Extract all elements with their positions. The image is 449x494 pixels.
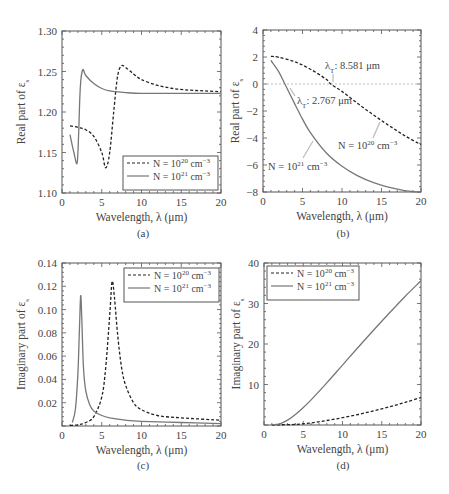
x-tick-label: 15 — [176, 196, 188, 208]
x-tick-label: 0 — [59, 196, 65, 208]
y-tick-label: 0 — [253, 78, 259, 90]
caption-c: (c) — [128, 459, 158, 471]
y-tick-label: 0.14 — [38, 257, 58, 269]
x-tick-label: 10 — [337, 195, 349, 207]
x-tick-label: 5 — [99, 196, 105, 208]
x-tick-label: 0 — [59, 429, 65, 441]
y-tick-label: 0.02 — [38, 397, 57, 409]
x-tick-label: 0 — [260, 195, 266, 207]
x-tick-label: 20 — [216, 429, 228, 441]
y-tick-label: 0.12 — [38, 280, 57, 292]
legend: N = 1020 cm−3N = 1021 cm−3 — [124, 268, 219, 302]
chart-canvas: 051015201.101.151.201.251.30Wavelength, … — [0, 0, 449, 494]
legend: N = 1020 cm−3N = 1021 cm−3 — [123, 156, 218, 190]
x-tick-label: 20 — [416, 195, 428, 207]
x-tick-label: 15 — [176, 429, 188, 441]
x-tick-label: 20 — [216, 196, 228, 208]
x-tick-label: 5 — [300, 195, 306, 207]
x-tick-label: 15 — [376, 428, 388, 440]
y-tick-label: −2 — [246, 105, 258, 117]
series-label-n1e21: N = 1021 cm−3 — [268, 160, 328, 172]
y-axis-label: Real part of εs — [15, 79, 31, 144]
caption-b: (b) — [328, 227, 358, 239]
x-tick-label: 10 — [136, 196, 148, 208]
x-axis-label: Wavelength, λ (μm) — [297, 443, 389, 456]
series-line-n1e21 — [271, 60, 421, 192]
y-tick-label: 4 — [253, 24, 259, 36]
x-axis-label: Wavelength, λ (μm) — [296, 210, 388, 223]
y-tick-label: 1.20 — [38, 106, 58, 118]
y-tick-label: −4 — [246, 132, 258, 144]
y-tick-label: 0.10 — [38, 304, 58, 316]
x-axis-label: Wavelength, λ (μm) — [96, 444, 188, 457]
x-axis-label: Wavelength, λ (μm) — [96, 211, 188, 224]
chart-panel-c: 051015200.020.040.060.080.100.120.14Wave… — [15, 257, 227, 457]
lambda-t-annotation-2: λT: 2.767 μm — [297, 95, 352, 110]
x-tick-label: 5 — [301, 428, 307, 440]
y-tick-label: 40 — [248, 257, 260, 269]
y-tick-label: 2 — [253, 51, 259, 63]
series-line-n1e20 — [70, 65, 221, 168]
chart-panel-a: 051015201.101.151.201.251.30Wavelength, … — [15, 25, 227, 224]
y-axis-label: Imaginary part of εs — [230, 298, 246, 389]
series-line-n1e21 — [272, 281, 421, 425]
caption-d: (d) — [328, 459, 358, 471]
x-tick-label: 15 — [376, 195, 388, 207]
y-tick-label: 1.25 — [38, 66, 58, 78]
y-tick-label: −8 — [246, 186, 258, 198]
y-tick-label: 1.30 — [38, 25, 58, 37]
lambda-t-annotation-1: λT: 8.581 μm — [325, 60, 380, 75]
y-tick-label: 1.10 — [38, 187, 58, 199]
legend: N = 1020 cm−3N = 1021 cm−3 — [267, 266, 359, 300]
series-label-n1e20: N = 1020 cm−3 — [338, 139, 398, 151]
y-tick-label: 0.06 — [38, 350, 58, 362]
series-line-n1e21 — [70, 69, 221, 163]
x-tick-label: 5 — [99, 429, 105, 441]
y-tick-label: 30 — [248, 298, 260, 310]
y-tick-label: 1.15 — [38, 147, 58, 159]
y-tick-label: −6 — [246, 159, 258, 171]
x-tick-label: 10 — [136, 429, 148, 441]
chart-panel-b: 05101520−8−6−4−2024Wavelength, λ (μm)Rea… — [229, 24, 427, 223]
y-tick-label: 10 — [248, 379, 260, 391]
annotations: λT: 8.581 μmλT: 2.767 μmN = 1020 cm−3N =… — [268, 60, 398, 172]
series-line-n1e21 — [72, 296, 221, 424]
caption-a: (a) — [128, 227, 158, 239]
y-tick-label: 0.08 — [38, 327, 58, 339]
y-tick-label: 0.04 — [38, 373, 58, 385]
y-axis-label: Imaginary part of εs — [15, 299, 31, 390]
series-line-n1e20 — [272, 398, 421, 426]
series-line-n1e20 — [70, 281, 221, 425]
x-tick-label: 20 — [416, 428, 428, 440]
chart-panel-d: 0510152010203040Wavelength, λ (μm)Imagin… — [230, 257, 427, 456]
x-tick-label: 10 — [337, 428, 349, 440]
x-tick-label: 0 — [261, 428, 267, 440]
y-axis-label: Real part of εs — [229, 78, 245, 143]
y-tick-label: 20 — [248, 338, 260, 350]
